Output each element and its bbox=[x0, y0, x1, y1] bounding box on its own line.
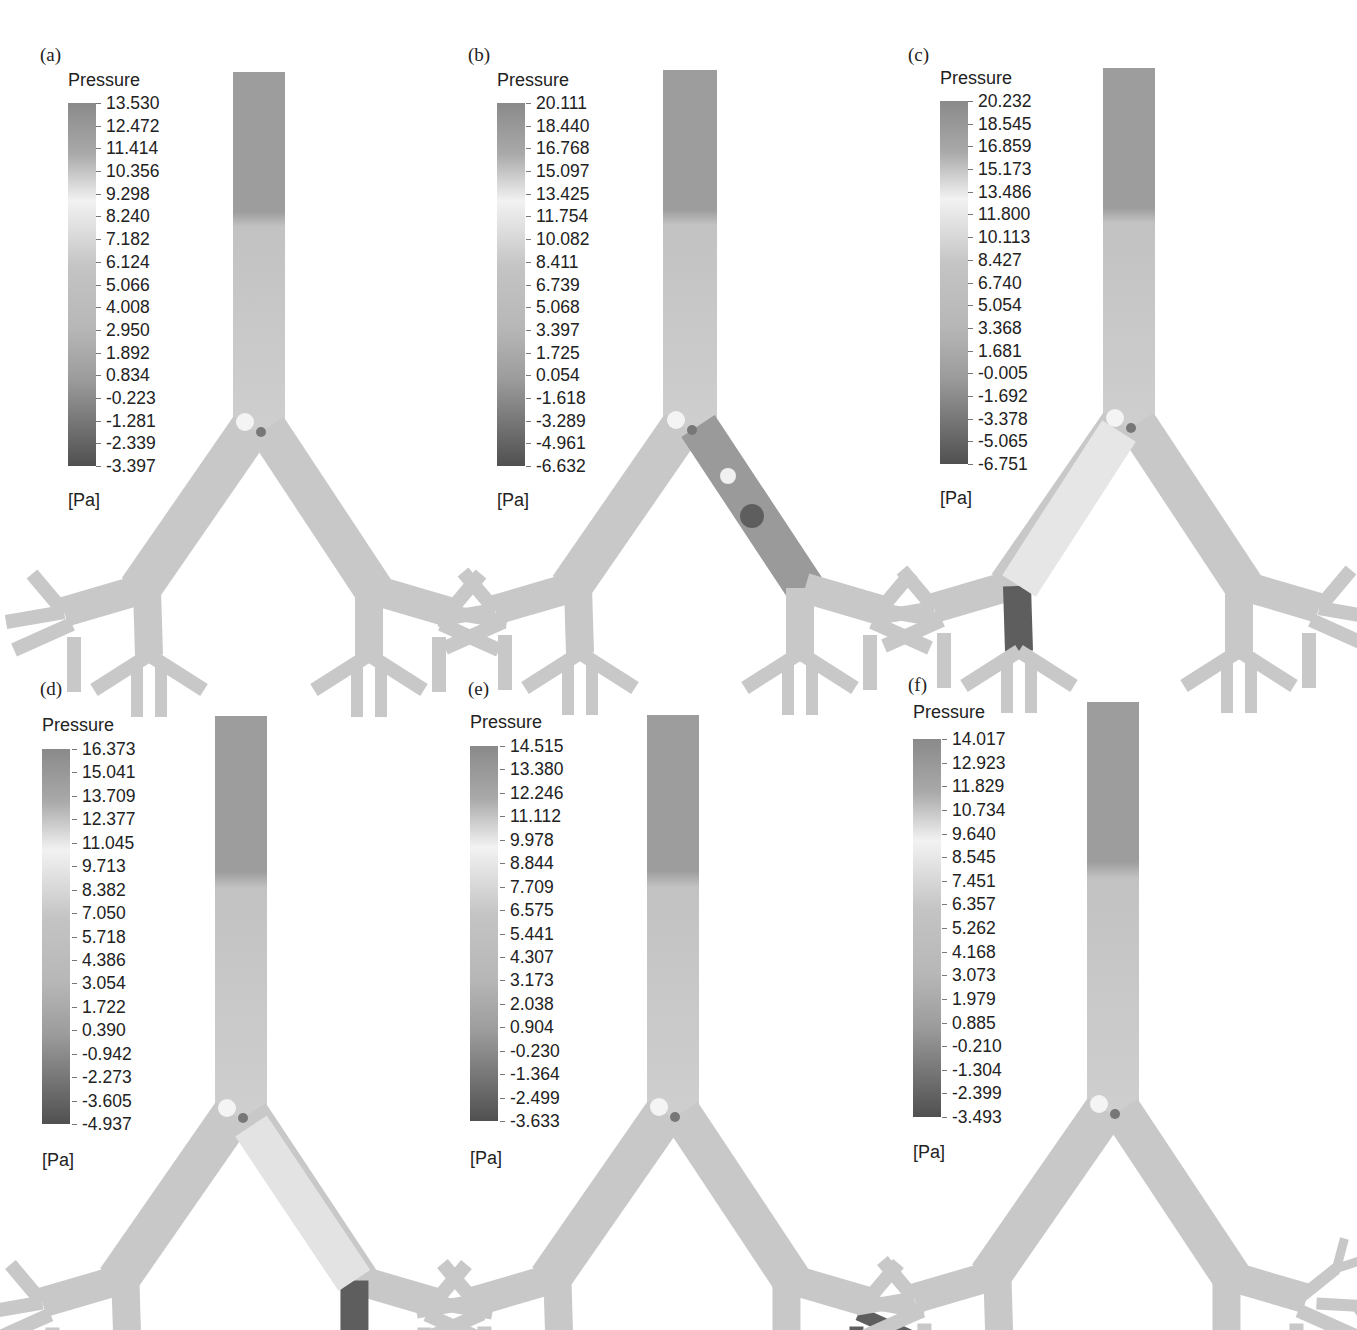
right-lobar-bronchus bbox=[374, 590, 449, 612]
right-lobar-bronchus bbox=[359, 1281, 434, 1303]
panel-d: (d) Pressure 16.37315.04113.70912.37711.… bbox=[0, 670, 440, 1330]
right-segment-branch bbox=[1311, 620, 1357, 646]
left-segment-branch bbox=[876, 608, 934, 618]
carina-high-pressure bbox=[667, 411, 685, 429]
trachea bbox=[1087, 702, 1139, 1122]
airway-tree bbox=[440, 670, 880, 1330]
carina-low-pressure bbox=[256, 427, 266, 437]
left-segment-branch bbox=[856, 1299, 914, 1309]
left-segment-branch bbox=[437, 610, 495, 620]
left-lower-bronchus bbox=[147, 590, 149, 655]
right-lobar-bronchus bbox=[1231, 1277, 1306, 1299]
right-segment-branch bbox=[1319, 608, 1357, 618]
carina-high-pressure bbox=[1090, 1095, 1108, 1113]
left-segment-branch bbox=[0, 1315, 50, 1330]
low-pressure-region bbox=[1005, 587, 1019, 601]
left-main-bronchus bbox=[139, 428, 251, 590]
left-lower-bronchus bbox=[578, 588, 580, 653]
left-lower-bronchus bbox=[125, 1281, 127, 1330]
right-segment-branch bbox=[1316, 1304, 1357, 1307]
carina-high-pressure bbox=[1106, 409, 1124, 427]
carina-high-pressure bbox=[236, 413, 254, 431]
left-segment-branch bbox=[445, 622, 503, 648]
panel-f: (f) Pressure 14.01712.92311.82910.7349.6… bbox=[880, 670, 1320, 1330]
trachea bbox=[233, 72, 285, 440]
left-lobar-bronchus bbox=[474, 1280, 549, 1302]
high-pressure-band bbox=[720, 468, 736, 484]
airway-tree bbox=[0, 0, 440, 660]
left-segment-branch bbox=[6, 612, 64, 622]
left-segment-branch bbox=[884, 620, 942, 646]
carina-low-pressure bbox=[1126, 423, 1136, 433]
carina-low-pressure bbox=[238, 1113, 248, 1123]
low-pressure-region bbox=[740, 504, 764, 528]
right-segment-branch bbox=[1298, 1311, 1356, 1330]
left-segment-branch bbox=[14, 624, 72, 650]
left-main-bronchus bbox=[989, 1110, 1105, 1277]
left-segment-branch bbox=[0, 1303, 42, 1313]
right-lobar-bronchus bbox=[805, 588, 880, 610]
left-lobar-bronchus bbox=[64, 590, 139, 612]
carina-high-pressure bbox=[218, 1099, 236, 1117]
right-extra-branch bbox=[1301, 1269, 1336, 1297]
left-main-bronchus-high bbox=[1019, 431, 1119, 586]
airway-tree bbox=[880, 0, 1320, 660]
trachea bbox=[215, 716, 267, 1126]
panel-a: (a) Pressure 13.53012.47211.41410.3569.2… bbox=[0, 0, 440, 660]
carina-high-pressure bbox=[650, 1098, 668, 1116]
right-main-bronchus bbox=[1121, 1110, 1231, 1277]
airway-tree bbox=[440, 0, 880, 660]
left-lower-bronchus bbox=[557, 1280, 559, 1330]
left-lobar-bronchus bbox=[42, 1281, 117, 1303]
left-main-bronchus bbox=[549, 1113, 665, 1280]
trachea bbox=[647, 715, 699, 1125]
airway-tree bbox=[880, 670, 1320, 1330]
carina-low-pressure bbox=[687, 425, 697, 435]
panel-c: (c) Pressure 20.23218.54516.85915.17313.… bbox=[880, 0, 1320, 660]
right-main-bronchus bbox=[267, 428, 374, 590]
left-lower-bronchus bbox=[997, 1277, 999, 1330]
right-lobar-bronchus bbox=[1244, 586, 1319, 608]
panel-b: (b) Pressure 20.11118.44016.76815.09713.… bbox=[440, 0, 880, 660]
left-segment-branch bbox=[416, 1302, 474, 1312]
left-main-bronchus bbox=[570, 426, 682, 588]
carina-low-pressure bbox=[1110, 1109, 1120, 1119]
trachea bbox=[663, 70, 717, 438]
right-main-bronchus bbox=[1137, 424, 1244, 586]
trachea bbox=[1103, 68, 1155, 436]
carina-low-pressure bbox=[670, 1112, 680, 1122]
left-lobar-bronchus bbox=[934, 586, 1009, 608]
panel-e: (e) Pressure 14.51513.38012.24611.1129.9… bbox=[440, 670, 880, 1330]
right-main-bronchus bbox=[681, 1113, 791, 1280]
left-main-bronchus bbox=[117, 1114, 233, 1281]
left-lobar-bronchus bbox=[914, 1277, 989, 1299]
right-main-bronchus-high bbox=[251, 1126, 354, 1281]
right-lobar-bronchus bbox=[791, 1280, 866, 1302]
left-lobar-bronchus bbox=[495, 588, 570, 610]
airway-tree bbox=[0, 670, 440, 1330]
